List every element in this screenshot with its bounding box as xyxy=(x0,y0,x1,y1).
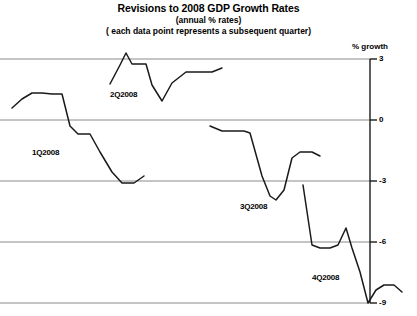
chart-figure: Revisions to 2008 GDP Growth Rates (annu… xyxy=(0,0,417,316)
series-label-1q2008: 1Q2008 xyxy=(32,148,59,157)
y-axis-spine xyxy=(370,59,377,303)
plot-area xyxy=(0,0,417,316)
series-label-4q2008: 4Q2008 xyxy=(312,273,339,282)
series-line-1q2008 xyxy=(12,93,144,183)
y-tick-label-neg9: -9 xyxy=(379,298,386,307)
y-tick-label-3: 3 xyxy=(379,54,383,63)
series-label-3q2008: 3Q2008 xyxy=(240,202,267,211)
y-tick-label-neg3: -3 xyxy=(379,176,386,185)
gridlines xyxy=(0,59,370,303)
series-line-4q2008 xyxy=(303,185,402,303)
series-label-2q2008: 2Q2008 xyxy=(110,90,137,99)
y-tick-label-neg6: -6 xyxy=(379,237,386,246)
y-tick-label-0: 0 xyxy=(379,115,383,124)
